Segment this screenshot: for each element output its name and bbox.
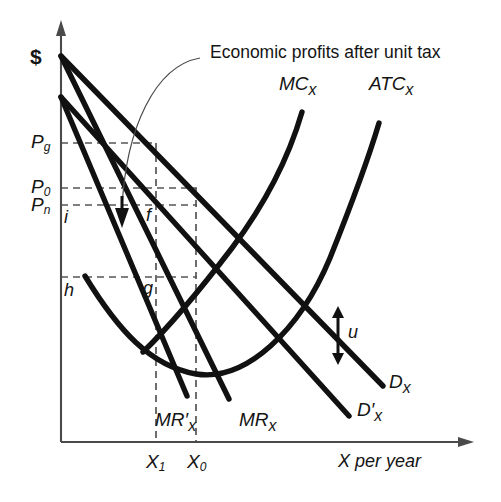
curve-label-dx-prime-sub: x — [374, 407, 382, 424]
curve-label-mrx-prime-base: MR — [155, 409, 185, 430]
point-label-u: u — [348, 323, 358, 341]
quantity-tick-x1-sub: 1 — [159, 460, 166, 474]
curve-label-mrx-prime: MR′x — [155, 410, 196, 434]
price-tick-pg-sub: g — [44, 140, 51, 154]
x-axis-title: X per year — [338, 452, 421, 470]
x-axis-arrowhead — [458, 437, 474, 447]
curve-label-mrx: MRx — [239, 410, 276, 434]
curve-label-mrx-prime-sub: x — [188, 417, 196, 434]
curve-label-dx: Dx — [389, 372, 411, 396]
economics-figure: $ Pg P0 Pn X1 X0 X per year Economic pro… — [0, 0, 501, 502]
price-tick-pn-sub: n — [44, 203, 51, 217]
price-tick-pn-base: P — [31, 194, 44, 215]
curve-label-mcx-sub: x — [309, 81, 317, 98]
unit-tax-arrowhead-down — [332, 353, 344, 365]
price-tick-pg: Pg — [31, 132, 50, 151]
y-axis-label-dollar: $ — [30, 46, 42, 67]
quantity-tick-x1-base: X — [146, 451, 159, 472]
curve-label-mrx-base: MR — [239, 409, 269, 430]
point-label-h: h — [64, 281, 74, 299]
curve-label-atcx: ATCx — [369, 74, 414, 98]
demand-curve-dx — [61, 56, 383, 386]
quantity-tick-x0: X0 — [187, 452, 206, 471]
curve-label-mcx: MCx — [279, 74, 316, 98]
curve-label-mrx-sub: x — [269, 417, 277, 434]
quantity-tick-x1: X1 — [146, 452, 165, 471]
point-label-i: i — [64, 208, 68, 226]
curve-label-atcx-base: ATC — [369, 73, 406, 94]
y-axis-arrowhead — [56, 20, 66, 36]
annotation-label: Economic profits after unit tax — [210, 44, 441, 62]
curve-label-dx-base: D — [389, 371, 403, 392]
point-label-g: g — [143, 279, 153, 297]
quantity-tick-x0-base: X — [187, 451, 200, 472]
unit-tax-arrowhead-up — [332, 306, 344, 318]
price-tick-pg-base: P — [31, 131, 44, 152]
marginal-cost-curve — [143, 112, 302, 352]
curve-label-atcx-sub: x — [406, 81, 414, 98]
quantity-tick-x0-sub: 0 — [200, 460, 207, 474]
curve-label-dx-sub: x — [403, 379, 411, 396]
curve-label-mcx-base: MC — [279, 73, 309, 94]
curve-label-dx-prime: D′x — [357, 400, 382, 424]
price-tick-pn: Pn — [31, 195, 50, 214]
curve-label-dx-prime-base: D — [357, 399, 371, 420]
marginal-revenue-curve-mrx-prime — [61, 97, 187, 396]
point-label-f: f — [146, 206, 151, 224]
